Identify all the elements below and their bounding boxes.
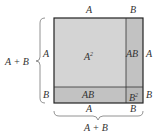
left-brace-label: A + B xyxy=(5,57,29,67)
top-label-b: B xyxy=(130,5,136,15)
ab-bottom-label: AB xyxy=(82,90,94,100)
ab-right-label: AB xyxy=(126,49,138,59)
bottom-brace-label: A + B xyxy=(84,123,108,133)
b-squared-label: B2 xyxy=(129,90,138,103)
right-label-b: B xyxy=(146,90,152,100)
top-label-a: A xyxy=(86,5,92,15)
area-diagram xyxy=(0,0,158,137)
left-inner-label-b: B xyxy=(43,90,49,100)
left-inner-label-a: A xyxy=(43,49,49,59)
right-label-a: A xyxy=(146,49,152,59)
a-squared-label: A2 xyxy=(84,49,93,62)
bottom-label-b: B xyxy=(130,104,136,114)
bottom-label-a: A xyxy=(86,104,92,114)
